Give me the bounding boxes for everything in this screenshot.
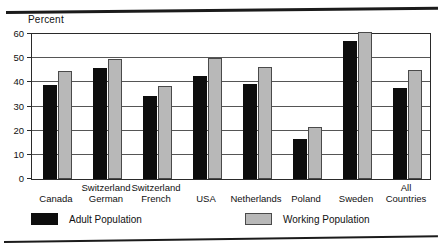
legend-item: Adult Population [31, 213, 142, 225]
bar-adult [243, 84, 257, 179]
chart-figure: Percent 0102030405060 CanadaSwitzerlandG… [0, 0, 441, 248]
bar-adult [393, 88, 407, 179]
bar-adult [193, 76, 207, 179]
bar-group [32, 34, 82, 179]
bar-group [182, 34, 232, 179]
bar-working [208, 58, 222, 179]
y-tick-label-30: 30 [13, 102, 24, 112]
category-label-line: Countries [372, 193, 440, 204]
bar-working [408, 70, 422, 179]
legend-label: Working Population [283, 214, 370, 225]
bar-group [282, 34, 332, 179]
bar-group [82, 34, 132, 179]
bottom-divider-rule [4, 235, 438, 243]
x-axis-category-label: AllCountries [372, 182, 440, 204]
legend-item: Working Population [245, 213, 370, 225]
y-tick-label-50: 50 [13, 53, 24, 63]
x-axis-category-labels: CanadaSwitzerlandGermanSwitzerlandFrench… [31, 182, 431, 212]
plot-area: 0102030405060 [31, 33, 431, 180]
bar-working [58, 71, 72, 179]
bar-adult [43, 85, 57, 179]
bar-adult [143, 96, 157, 179]
bar-working [258, 67, 272, 179]
legend-swatch-adult [31, 213, 58, 225]
bar-adult [93, 68, 107, 179]
bar-group [132, 34, 182, 179]
bar-group [382, 34, 432, 179]
legend-label: Adult Population [69, 214, 142, 225]
bar-adult [343, 41, 357, 179]
y-tick-label-20: 20 [13, 126, 24, 136]
legend-swatch-working [245, 213, 272, 225]
chart-legend: Adult PopulationWorking Population [31, 213, 431, 231]
y-tick-label-60: 60 [13, 29, 24, 39]
bar-working [158, 86, 172, 179]
bar-adult [293, 139, 307, 179]
category-label-line: Switzerland [122, 182, 190, 193]
bar-working [358, 32, 372, 179]
bar-working [308, 127, 322, 179]
y-tick-label-10: 10 [13, 150, 24, 160]
y-axis-title: Percent [28, 14, 64, 25]
y-tick-label-0: 0 [19, 174, 24, 184]
bar-group [332, 34, 382, 179]
y-tick-label-40: 40 [13, 78, 24, 88]
bar-working [108, 59, 122, 179]
top-divider-rule [6, 7, 438, 14]
bar-series-container [32, 34, 430, 179]
category-label-line: All [372, 182, 440, 193]
bar-group [232, 34, 282, 179]
